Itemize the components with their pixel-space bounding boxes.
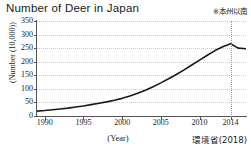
x-tick-label: 2010 [192,119,208,127]
source-label: 環境省(2018) [192,133,247,145]
y-tick-label: 350 [21,17,33,25]
x-axis-line [36,116,247,117]
y-tick-label: 100 [21,85,33,93]
x-tick-label: 1990 [37,119,53,127]
x-tick-label: 2005 [153,119,169,127]
chart-note: ※本州以南 [213,5,247,16]
y-tick-mark [34,116,37,117]
x-tick-label: 2000 [114,119,130,127]
deer-population-line [37,21,246,116]
y-tick-label: 200 [21,58,33,66]
x-tick-label: 2014 [223,119,239,127]
y-tick-label: 150 [21,71,33,79]
chart-title: Number of Deer in Japan [6,2,139,14]
x-axis-label: (Year) [107,133,128,143]
plot-area [37,21,246,116]
y-tick-label: 0 [29,112,33,120]
chart-container: Number of Deer in Japan ※本州以南 (Number (1… [0,0,251,151]
y-tick-label: 300 [21,31,33,39]
y-tick-label: 250 [21,44,33,52]
y-axis-label: (Number (10,000)) [8,5,17,101]
marker-vertical-line [231,21,232,117]
y-tick-label: 50 [25,98,33,106]
x-tick-label: 1995 [75,119,91,127]
